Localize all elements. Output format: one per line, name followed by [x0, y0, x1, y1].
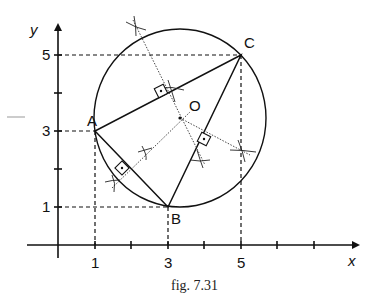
- y-tick-3: 3: [42, 122, 50, 139]
- y-tick-5: 5: [42, 46, 50, 63]
- point-label-b: B: [171, 210, 181, 227]
- x-tick-3: 3: [164, 254, 172, 271]
- projection-lines: [58, 55, 241, 245]
- y-tick-1: 1: [42, 198, 50, 215]
- x-tick-5: 5: [237, 254, 245, 271]
- geometry-figure: y x 1 3 5 1 3 5: [0, 0, 374, 308]
- x-tick-1: 1: [91, 254, 99, 271]
- point-label-c: C: [244, 34, 255, 51]
- y-axis-label: y: [29, 21, 39, 38]
- x-axis-arrow-icon: [352, 241, 360, 249]
- x-axis-label: x: [347, 252, 356, 269]
- axes: [27, 23, 360, 258]
- point-label-o: O: [189, 97, 201, 114]
- triangle-abc: [95, 55, 241, 207]
- point-label-a: A: [87, 112, 97, 129]
- y-axis-arrow-icon: [54, 23, 62, 31]
- center-point: [178, 116, 181, 119]
- figure-caption: fig. 7.31: [171, 278, 218, 293]
